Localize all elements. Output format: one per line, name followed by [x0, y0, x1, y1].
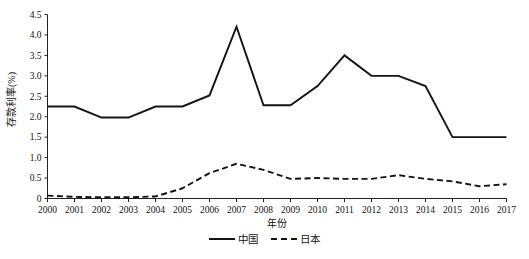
x-tick-label: 2008	[254, 205, 273, 215]
x-tick-label: 2005	[173, 205, 192, 215]
chart-legend: 中国 日本	[0, 231, 529, 246]
x-tick-label: 2011	[335, 205, 354, 215]
y-tick-label: 2.5	[30, 92, 42, 102]
x-tick-label: 2001	[65, 205, 84, 215]
legend-label-japan: 日本	[300, 231, 320, 246]
x-tick-label: 2009	[281, 205, 300, 215]
y-tick-label: 3.0	[30, 71, 42, 81]
legend-item-china: 中国	[209, 231, 258, 246]
x-tick-label: 2006	[200, 205, 219, 215]
y-tick-label: 0.5	[30, 173, 42, 183]
x-tick-label: 2017	[497, 205, 516, 215]
x-tick-label: 2012	[362, 205, 381, 215]
y-tick-label: 1.0	[30, 153, 42, 163]
x-tick-label: 2016	[470, 205, 489, 215]
y-tick-label: 4.5	[30, 10, 42, 20]
x-tick-label: 2007	[227, 205, 246, 215]
x-tick-label: 2002	[92, 205, 111, 215]
legend-swatch-dashed	[271, 238, 297, 240]
x-tick-label: 2010	[308, 205, 327, 215]
figure-caption	[0, 251, 529, 259]
x-tick-label: 2000	[38, 205, 57, 215]
legend-swatch-solid	[209, 238, 235, 240]
x-tick-label: 2013	[389, 205, 408, 215]
y-tick-label: 2.0	[30, 112, 42, 122]
legend-item-japan: 日本	[271, 231, 320, 246]
x-axis-title: 年份	[267, 217, 287, 229]
x-tick-label: 2014	[416, 205, 435, 215]
x-tick-label: 2003	[119, 205, 138, 215]
y-tick-label: 3.5	[30, 51, 42, 61]
y-tick-label: 4.0	[30, 30, 42, 40]
line-chart-plot: 00.51.01.52.02.53.03.54.04.5200020012002…	[0, 0, 529, 259]
series-line-china	[48, 27, 507, 137]
y-tick-label: 1.5	[30, 132, 42, 142]
series-line-japan	[48, 164, 507, 198]
y-tick-label: 0	[37, 194, 42, 204]
chart-figure: 存款利率(%) 00.51.01.52.02.53.03.54.04.52000…	[0, 0, 529, 259]
legend-label-china: 中国	[238, 231, 258, 246]
x-tick-label: 2004	[146, 205, 165, 215]
x-tick-label: 2015	[443, 205, 462, 215]
